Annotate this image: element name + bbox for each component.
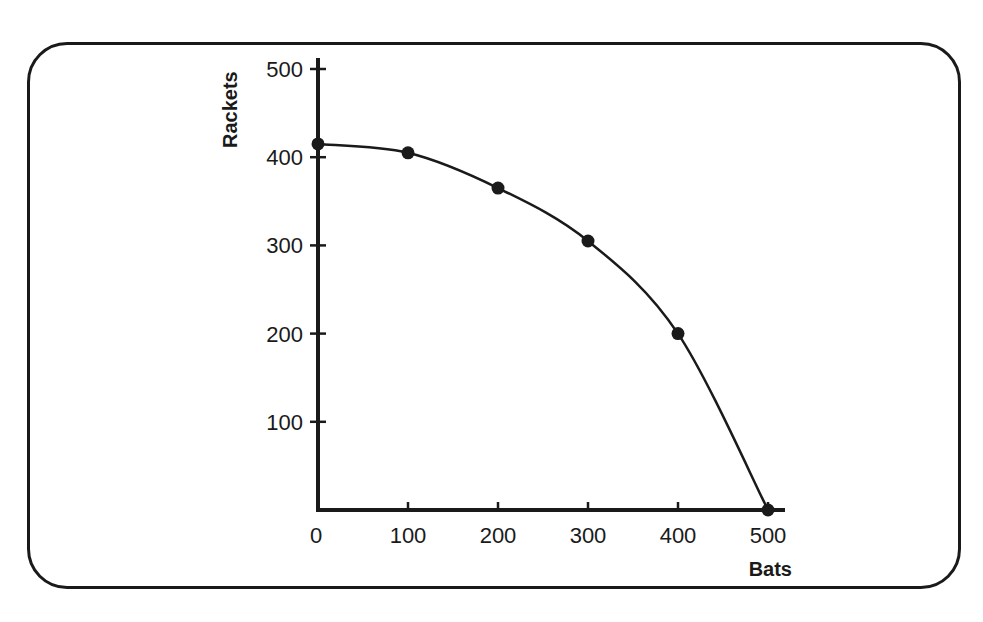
data-point bbox=[672, 327, 685, 340]
y-tick-label: 200 bbox=[266, 322, 303, 347]
y-tick-label: 300 bbox=[266, 233, 303, 258]
data-point bbox=[762, 504, 775, 517]
y-tick-label: 100 bbox=[266, 410, 303, 435]
axes bbox=[318, 58, 785, 512]
x-tick-label: 200 bbox=[480, 523, 517, 548]
data-point bbox=[582, 234, 595, 247]
x-tick-label: 300 bbox=[570, 523, 607, 548]
y-tick-label: 400 bbox=[266, 145, 303, 170]
data-point bbox=[312, 137, 325, 150]
x-tick-label: 100 bbox=[390, 523, 427, 548]
ticks: 0100200300400500100200300400500 bbox=[266, 57, 786, 548]
y-tick-label: 500 bbox=[266, 57, 303, 82]
data-point bbox=[402, 146, 415, 159]
x-tick-label: 400 bbox=[660, 523, 697, 548]
data-point bbox=[492, 182, 505, 195]
x-tick-label: 500 bbox=[750, 523, 787, 548]
x-axis-title: Bats bbox=[749, 558, 792, 580]
ppf-curve bbox=[318, 144, 768, 510]
x-tick-label: 0 bbox=[310, 523, 322, 548]
ppf-chart: 0100200300400500100200300400500 Bats Rac… bbox=[0, 0, 983, 622]
data-points bbox=[312, 137, 775, 516]
y-axis-title: Rackets bbox=[219, 71, 241, 148]
